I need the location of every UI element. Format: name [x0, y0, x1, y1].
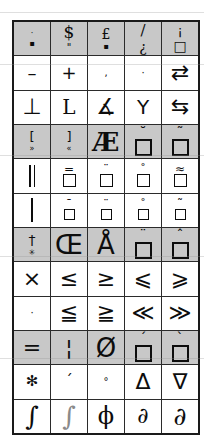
glyph-cell-middle-dot[interactable]: · — [125, 56, 162, 90]
glyph-cell-less-than-over-double-line[interactable]: ≦ — [51, 296, 88, 330]
right-bracket-glyph: ] — [66, 130, 71, 143]
glyph-cell-box-with-macron[interactable]: ¯ — [51, 193, 88, 227]
box-glyph — [101, 209, 112, 220]
dagger-glyph: † — [29, 233, 36, 247]
glyph-cell-up-tack[interactable]: ⊥ — [13, 90, 51, 124]
slash-glyph: / — [140, 23, 145, 38]
double-quote-glyph: " — [67, 43, 72, 53]
glyph-cell-greater-than-over-double-line[interactable]: ≧ — [88, 296, 125, 330]
vertical-bar-icon — [29, 165, 31, 187]
partial-differential-glyph: ∂ — [137, 405, 148, 427]
table-row: × ≤ ≥ ⩽ ⩾ — [13, 262, 199, 296]
glyph-cell-box-with-ring-small[interactable]: ˚ — [125, 193, 162, 227]
glyph-cell-corner-left[interactable]: L — [51, 90, 88, 124]
glyph-cell-middle-dot-small[interactable]: · — [13, 296, 51, 330]
glyph-cell-nabla-del[interactable]: ∇ — [162, 365, 200, 399]
glyph-cell-a-with-ring-above[interactable]: Å — [88, 227, 125, 261]
wye-junction-glyph: Y — [137, 97, 149, 117]
nabla-del-glyph: ∇ — [173, 371, 188, 393]
glyph-cell-box-with-diaeresis[interactable]: ¨ — [88, 159, 125, 193]
acute-accent-glyph: ´ — [140, 334, 147, 345]
glyph-cell-right-bracket-with-left-guillemet[interactable]: ] « — [51, 124, 88, 158]
glyph-cell-inverted-exclamation-over-box[interactable]: ¡ □ — [162, 21, 200, 56]
glyph-cell-left-bracket-with-right-guillemet[interactable]: [ » — [13, 124, 51, 158]
macron-accent-glyph: ¯ — [66, 200, 72, 209]
circumflex-accent-glyph: ˆ — [177, 231, 184, 242]
glyph-cell-multiplication-sign[interactable]: × — [13, 262, 51, 296]
glyph-cell-single-vertical-bar[interactable] — [13, 193, 51, 227]
glyph-cell-box-with-double-macron[interactable]: = — [51, 159, 88, 193]
glyph-cell-box-with-grave-accent[interactable]: ` — [162, 330, 200, 364]
increment-triangle-glyph: Δ — [135, 371, 150, 393]
glyph-cell-dollar-sign-with-double-quote[interactable]: $ " — [51, 21, 88, 56]
glyph-cell-partial-differential[interactable]: ∂ — [125, 399, 162, 434]
breve-accent-glyph: ˘ — [140, 128, 147, 139]
table-row: · ≦ ≧ ≪ ≫ — [13, 296, 199, 330]
box-glyph — [174, 174, 187, 187]
glyph-cell-dagger-over-asterisk[interactable]: † ✳ — [13, 227, 51, 261]
glyph-cell-phi-with-stroke[interactable]: ϕ — [88, 399, 125, 434]
glyph-cell-partial-differential-large[interactable]: ∂ — [162, 399, 200, 434]
box-glyph — [172, 345, 189, 362]
glyph-cell-box-with-breve[interactable]: ˘ — [125, 124, 162, 158]
multiplication-sign-glyph: × — [23, 268, 41, 290]
glyph-table: · ▪ $ " £ — [12, 20, 200, 435]
glyph-cell-greater-than-or-equal[interactable]: ≥ — [88, 262, 125, 296]
glyph-cell-box-with-acute-accent[interactable]: ´ — [125, 330, 162, 364]
glyph-cell-equals-sign[interactable]: = — [13, 330, 51, 364]
glyph-cell-pound-sign-with-mark[interactable]: £ ▪ — [88, 21, 125, 56]
double-tilde-accent-glyph: ≈ — [175, 165, 185, 174]
glyph-cell-wye-junction[interactable]: Y — [125, 90, 162, 124]
glyph-cell-asterisk-operator[interactable]: ✻ — [13, 365, 51, 399]
table-row: ∫ ∫ ϕ ∂ ∂ — [13, 399, 199, 434]
glyph-cell-box-with-double-tilde[interactable]: ≈ — [162, 159, 200, 193]
box-glyph — [63, 174, 76, 187]
glyph-cell-o-with-stroke-capital[interactable]: Ø — [88, 330, 125, 364]
plus-sign-glyph: + — [61, 64, 76, 82]
glyph-cell-broken-vertical-bar[interactable]: ¦ — [51, 330, 88, 364]
square-mark-glyph: ▪ — [29, 40, 34, 48]
left-bracket-glyph: [ — [29, 130, 34, 143]
glyph-cell-box-with-diaeresis-small[interactable]: ¨ — [88, 193, 125, 227]
glyph-cell-integral-sign[interactable]: ∫ — [13, 399, 51, 434]
vertical-bar-icon — [31, 198, 33, 222]
dot-glyph: · — [31, 30, 34, 38]
glyph-cell-integral-sign-light[interactable]: ∫ — [51, 399, 88, 434]
glyph-cell-leftwards-over-rightwards-arrow[interactable]: ⇆ — [162, 90, 200, 124]
greater-than-or-equal-glyph: ≥ — [97, 268, 115, 290]
glyph-cell-dot-over-square-mark[interactable]: · ▪ — [13, 21, 51, 56]
acute-accent-glyph: ´ — [65, 374, 73, 389]
table-row: – + , · ⇄ — [13, 56, 199, 90]
glyph-cell-slash-over-inverted-question[interactable]: / ¿ — [125, 21, 162, 56]
glyph-cell-box-with-circumflex[interactable]: ˆ — [162, 227, 200, 261]
glyph-cell-much-greater-than[interactable]: ≫ — [162, 296, 200, 330]
glyph-cell-box-with-tilde[interactable]: ˜ — [162, 124, 200, 158]
glyph-cell-oe-ligature-capital[interactable]: Œ — [51, 227, 88, 261]
box-glyph: □ — [173, 39, 186, 53]
table-row: = ¦ Ø ´ — [13, 330, 199, 364]
en-dash-glyph: – — [28, 64, 37, 82]
glyph-cell-degree-sign[interactable]: ° — [88, 365, 125, 399]
glyph-cell-box-with-ring-above[interactable]: ˚ — [125, 159, 162, 193]
glyph-cell-en-dash[interactable]: – — [13, 56, 51, 90]
glyph-cell-increment-triangle[interactable]: Δ — [125, 365, 162, 399]
glyph-cell-comma[interactable]: , — [88, 56, 125, 90]
glyph-cell-much-less-than[interactable]: ≪ — [125, 296, 162, 330]
glyph-cell-plus-sign[interactable]: + — [51, 56, 88, 90]
glyph-cell-less-than-or-slanted-equal[interactable]: ⩽ — [125, 262, 162, 296]
table-row: ¯ ¨ ˚ — [13, 193, 199, 227]
glyph-cell-greater-than-or-slanted-equal[interactable]: ⩾ — [162, 262, 200, 296]
glyph-table-body: · ▪ $ " £ — [13, 21, 199, 434]
glyph-cell-box-with-tilde-small[interactable]: ˜ — [162, 193, 200, 227]
glyph-cell-box-with-diaeresis-large[interactable]: ¨ — [125, 227, 162, 261]
ae-ligature-glyph: Æ — [93, 129, 120, 155]
glyph-cell-rightwards-over-leftwards-arrow[interactable]: ⇄ — [162, 56, 200, 90]
box-glyph — [64, 209, 75, 220]
glyph-cell-angle-with-slash[interactable]: ∡ — [88, 90, 125, 124]
glyph-cell-acute-accent-standalone[interactable]: ´ — [51, 365, 88, 399]
glyph-cell-double-vertical-bar[interactable] — [13, 159, 51, 193]
table-row: ✻ ´ ° Δ ∇ — [13, 365, 199, 399]
glyph-cell-ae-ligature-capital[interactable]: Æ — [88, 124, 125, 158]
glyph-cell-less-than-or-equal[interactable]: ≤ — [51, 262, 88, 296]
o-stroke-glyph: Ø — [96, 335, 116, 361]
